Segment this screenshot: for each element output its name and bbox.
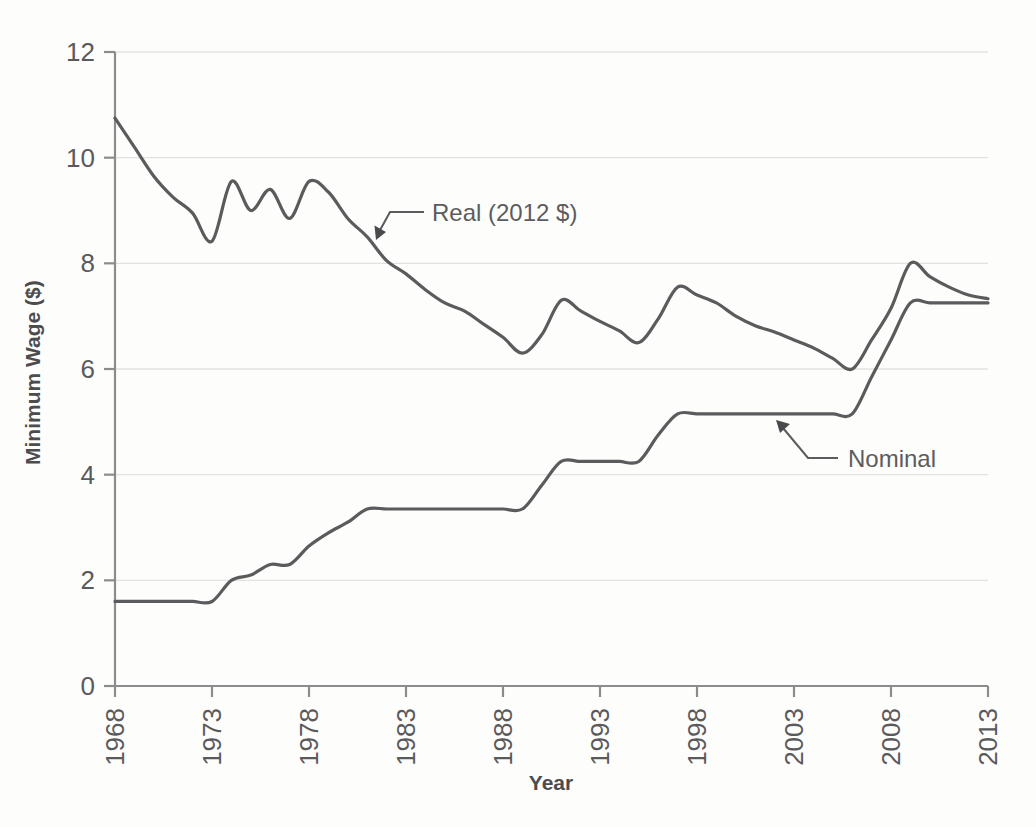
y-tick-label-10: 10 bbox=[66, 143, 95, 173]
x-tick-label-2008: 2008 bbox=[876, 708, 906, 766]
chart-svg: 024681012 196819731978198319881993199820… bbox=[0, 0, 1036, 827]
x-tick-label-2003: 2003 bbox=[779, 708, 809, 766]
x-tick-label-2013: 2013 bbox=[973, 708, 1003, 766]
x-axis-title: Year bbox=[529, 771, 573, 794]
x-tick-label-1988: 1988 bbox=[488, 708, 518, 766]
y-tick-label-12: 12 bbox=[66, 37, 95, 67]
x-tick-label-1993: 1993 bbox=[585, 708, 615, 766]
y-axis-title: Minimum Wage ($) bbox=[21, 280, 44, 465]
x-tick-label-1998: 1998 bbox=[682, 708, 712, 766]
annotation-nominal-label: Nominal bbox=[848, 445, 936, 472]
minimum-wage-chart-figure: 024681012 196819731978198319881993199820… bbox=[0, 0, 1036, 827]
y-tick-label-4: 4 bbox=[81, 460, 95, 490]
x-tick-label-1978: 1978 bbox=[294, 708, 324, 766]
annotation-real-label: Real (2012 $) bbox=[432, 199, 577, 226]
y-tick-label-8: 8 bbox=[81, 248, 95, 278]
chart-background bbox=[0, 0, 1036, 827]
x-tick-label-1968: 1968 bbox=[100, 708, 130, 766]
y-tick-label-0: 0 bbox=[81, 671, 95, 701]
x-tick-label-1973: 1973 bbox=[197, 708, 227, 766]
x-tick-label-1983: 1983 bbox=[391, 708, 421, 766]
y-tick-label-6: 6 bbox=[81, 354, 95, 384]
y-tick-label-2: 2 bbox=[81, 565, 95, 595]
